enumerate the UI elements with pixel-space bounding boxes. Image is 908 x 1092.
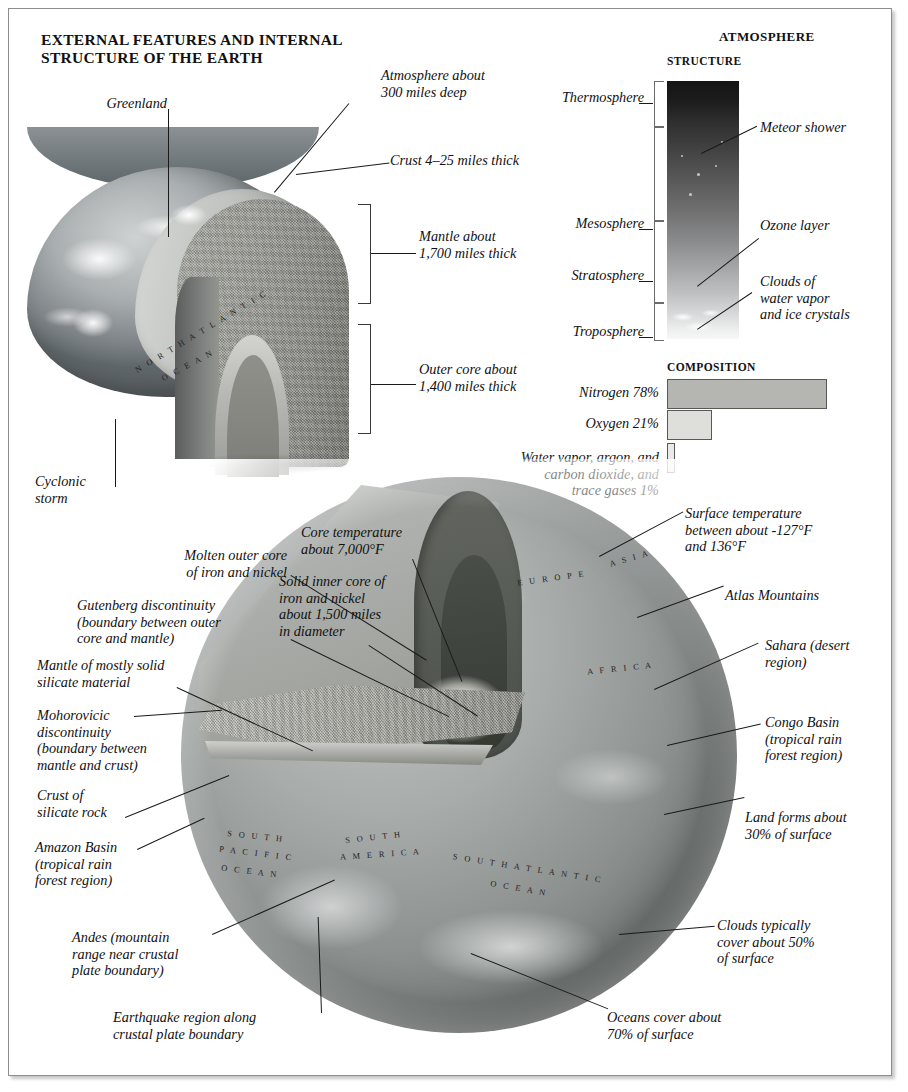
annotation-clouds-line-2: water vapor — [760, 290, 890, 307]
callout-amazon-line-3: forest region) — [35, 872, 195, 889]
callout-clouds-coverage-line-1: Clouds typically — [717, 917, 877, 934]
callout-congo-line-2: (tropical rain — [765, 731, 900, 748]
meteor-dot — [697, 173, 700, 176]
leader-greenland — [168, 109, 169, 237]
callout-clouds-coverage-line-3: of surface — [717, 950, 877, 967]
callout-oceans-coverage: Oceans cover about 70% of surface — [607, 1009, 787, 1042]
callout-earthquake-line-2: crustal plate boundary — [113, 1026, 348, 1043]
callout-cyclonic-line-1: Cyclonic — [35, 473, 135, 490]
callout-sahara: Sahara (desert region) — [765, 637, 895, 670]
callout-surface-temp-line-3: and 136°F — [685, 538, 885, 555]
bar-label-nitrogen: Nitrogen 78% — [539, 384, 659, 401]
callout-amazon-line-1: Amazon Basin — [35, 839, 195, 856]
callout-core-temperature: Core temperature about 7,000°F — [301, 524, 469, 557]
callout-andes-line-2: range near crustal — [72, 946, 257, 963]
greenland-ice-patch — [167, 201, 213, 229]
tick-thermosphere — [639, 103, 653, 104]
callout-inner-core-line-1: Solid inner core of — [279, 573, 459, 590]
upper-cutaway-globe-illustration — [27, 127, 387, 457]
bracket-stratosphere — [654, 221, 664, 303]
leader-cyclonic-storm — [115, 419, 116, 487]
callout-clouds-coverage: Clouds typically cover about 50% of surf… — [717, 917, 877, 967]
callout-land-forms-line-1: Land forms about — [745, 809, 905, 826]
bar-label-oxygen: Oxygen 21% — [539, 415, 659, 432]
callout-atlas-mountains: Atlas Mountains — [725, 587, 819, 604]
bracket-thermosphere — [654, 81, 664, 127]
callout-oceans-line-2: 70% of surface — [607, 1026, 787, 1043]
bracket-troposphere — [654, 303, 664, 341]
cyclonic-storm-swirl — [65, 303, 121, 343]
callout-congo-line-3: forest region) — [765, 747, 900, 764]
annotation-ozone-layer: Ozone layer — [760, 217, 829, 234]
tick-stratosphere — [639, 281, 653, 282]
meteor-dot — [681, 155, 683, 157]
callout-land-forms-line-2: 30% of surface — [745, 826, 905, 843]
callout-cyclonic-line-2: storm — [35, 490, 135, 507]
callout-surface-temp-line-2: between about -127°F — [685, 522, 885, 539]
bracket-mesosphere — [654, 127, 664, 221]
callout-mantle-upper-line-2: 1,700 miles thick — [419, 245, 579, 262]
callout-andes: Andes (mountain range near crustal plate… — [72, 929, 257, 979]
callout-amazon-line-2: (tropical rain — [35, 856, 195, 873]
callout-molten-outer-core: Molten outer core of iron and nickel — [97, 547, 287, 580]
tick-troposphere — [639, 337, 653, 338]
annotation-clouds-atmosphere: Clouds of water vapor and ice crystals — [760, 273, 890, 323]
callout-gutenberg-line-3: core and mantle) — [77, 630, 292, 647]
callout-sahara-line-1: Sahara (desert — [765, 637, 895, 654]
callout-inner-core-line-2: iron and nickel — [279, 590, 459, 607]
atmosphere-section-title: ATMOSPHERE — [719, 29, 815, 45]
callout-surface-temperature: Surface temperature between about -127°F… — [685, 505, 885, 555]
callout-crust-lower: Crust of silicate rock — [37, 787, 187, 820]
callout-crust: Crust 4–25 miles thick — [390, 152, 570, 169]
bracket-outer-core — [358, 324, 371, 434]
callout-inner-core-line-4: in diameter — [279, 623, 459, 640]
callout-congo-line-1: Congo Basin — [765, 714, 900, 731]
callout-greenland: Greenland — [49, 95, 167, 112]
callout-molten-core-line-1: Molten outer core — [97, 547, 287, 564]
composition-title: COMPOSITION — [667, 361, 756, 373]
callout-oceans-line-1: Oceans cover about — [607, 1009, 787, 1026]
callout-solid-inner-core: Solid inner core of iron and nickel abou… — [279, 573, 459, 639]
callout-gutenberg-line-2: (boundary between outer — [77, 614, 292, 631]
callout-molten-core-line-2: of iron and nickel — [97, 564, 287, 581]
callout-surface-temp-line-1: Surface temperature — [685, 505, 885, 522]
callout-mantle-upper: Mantle about 1,700 miles thick — [419, 228, 579, 261]
page-frame: EXTERNAL FEATURES AND INTERNAL STRUCTURE… — [8, 8, 892, 1076]
callout-core-temp-line-1: Core temperature — [301, 524, 469, 541]
atmosphere-cloud-band — [667, 305, 739, 339]
leader-outer-core-upper — [370, 384, 416, 385]
callout-amazon-basin: Amazon Basin (tropical rain forest regio… — [35, 839, 195, 889]
callout-moho-line-2: discontinuity — [37, 724, 242, 741]
meteor-dot — [715, 165, 717, 167]
page-title: EXTERNAL FEATURES AND INTERNAL STRUCTURE… — [41, 31, 371, 67]
meteor-dot — [689, 193, 692, 196]
bracket-mantle — [358, 204, 371, 304]
callout-moho-line-4: mantle and crust) — [37, 757, 242, 774]
callout-gutenberg-discontinuity: Gutenberg discontinuity (boundary betwee… — [77, 597, 292, 647]
callout-atmosphere-line-1: Atmosphere about — [381, 67, 551, 84]
callout-mantle-lower: Mantle of mostly solid silicate material — [37, 657, 237, 690]
atmosphere-layer-stratosphere: Stratosphere — [514, 267, 644, 284]
callout-earthquake-region: Earthquake region along crustal plate bo… — [113, 1009, 348, 1042]
callout-gutenberg-line-1: Gutenberg discontinuity — [77, 597, 292, 614]
callout-mohorovicic-discontinuity: Mohorovicic discontinuity (boundary betw… — [37, 707, 242, 773]
callout-cyclonic-storm: Cyclonic storm — [35, 473, 135, 506]
atmosphere-structure-column — [667, 81, 739, 339]
page-title-line-2: STRUCTURE OF THE EARTH — [41, 49, 371, 67]
callout-clouds-coverage-line-2: cover about 50% — [717, 934, 877, 951]
callout-inner-core-line-3: about 1,500 miles — [279, 606, 459, 623]
callout-outer-core-upper-line-1: Outer core about — [419, 361, 589, 378]
annotation-meteor-shower: Meteor shower — [760, 119, 846, 136]
callout-mantle-lower-line-2: silicate material — [37, 674, 237, 691]
atmosphere-layer-thermosphere: Thermosphere — [524, 89, 644, 106]
callout-crust-lower-line-2: silicate rock — [37, 804, 187, 821]
tick-mesosphere — [639, 229, 653, 230]
atmosphere-layer-mesosphere: Mesosphere — [524, 215, 644, 232]
leader-mantle-upper — [370, 253, 416, 254]
atmosphere-structure-title: STRUCTURE — [667, 55, 742, 67]
bar-oxygen — [667, 410, 712, 440]
callout-mantle-lower-line-1: Mantle of mostly solid — [37, 657, 237, 674]
callout-sahara-line-2: region) — [765, 654, 895, 671]
callout-core-temp-line-2: about 7,000°F — [301, 541, 469, 558]
callout-congo-basin: Congo Basin (tropical rain forest region… — [765, 714, 900, 764]
